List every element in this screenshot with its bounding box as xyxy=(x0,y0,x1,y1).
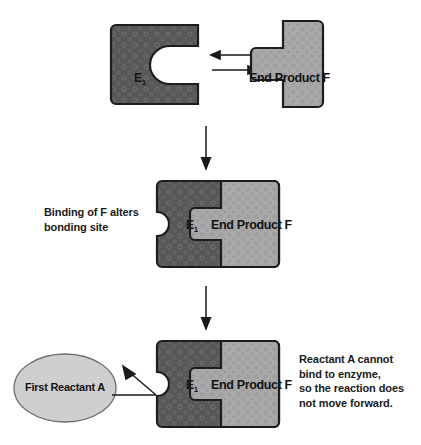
blocked-binding-arrow xyxy=(112,362,164,404)
caption-reactant-cannot-bind: Reactant A cannot bind to enzyme, so the… xyxy=(299,352,421,410)
flow-arrow-2 xyxy=(198,286,214,332)
end-product-shape-stage1 xyxy=(246,18,330,110)
first-reactant-shape xyxy=(12,352,118,424)
enzyme-shape-stage1 xyxy=(110,20,206,108)
caption-binding-alters-site: Binding of F alters bonding site xyxy=(44,205,159,234)
stage-3-blocked: E1 End Product F xyxy=(155,338,285,433)
stage-1-unbound: E1 End Product F xyxy=(110,18,310,118)
enzyme-shape-stage3 xyxy=(155,338,281,430)
flow-arrow-1 xyxy=(198,126,214,172)
stage-2-bound: E1 End Product F xyxy=(155,178,285,273)
enzyme-shape-stage2 xyxy=(155,178,281,270)
